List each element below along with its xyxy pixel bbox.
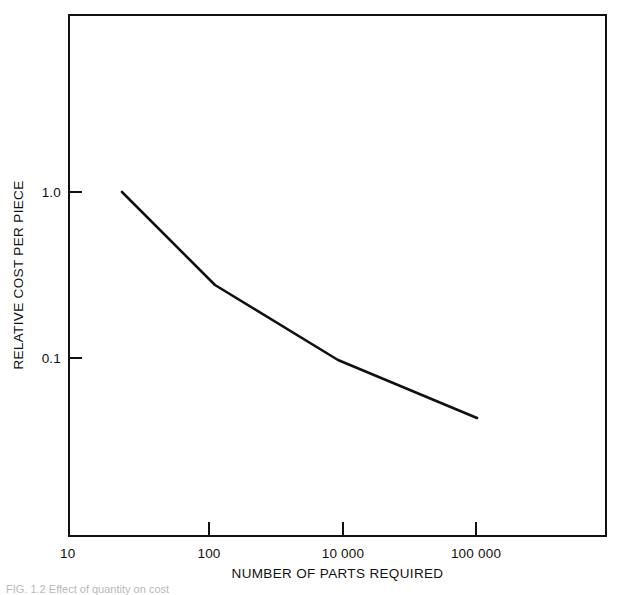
x-axis-title: NUMBER OF PARTS REQUIRED — [68, 566, 607, 581]
y-axis-title: RELATIVE COST PER PIECE — [11, 180, 26, 369]
xtick-label-10000: 10 000 — [322, 546, 365, 561]
figure-caption: FIG. 1.2 Effect of quantity on cost — [6, 583, 169, 595]
xtick-label-100: 100 — [197, 546, 220, 561]
plot-frame — [68, 14, 607, 537]
ytick-label-1-0: 1.0 — [42, 185, 61, 200]
ytick-label-0-1: 0.1 — [42, 351, 61, 366]
xtick-label-100000: 100 000 — [451, 546, 501, 561]
xtick-label-10: 10 — [60, 546, 75, 561]
